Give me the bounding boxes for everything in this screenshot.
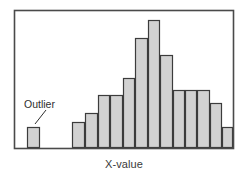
histogram-bar — [124, 79, 135, 148]
histogram-chart — [0, 0, 248, 178]
histogram-bar — [186, 91, 197, 148]
histogram-bar — [211, 104, 222, 148]
histogram-bar — [149, 21, 160, 148]
histogram-bar — [136, 39, 148, 148]
histogram-bar — [73, 123, 85, 148]
histogram-bar — [174, 91, 185, 148]
histogram-bar — [161, 56, 173, 148]
histogram-bar — [86, 114, 98, 148]
histogram-figure: Outlier X-value — [0, 0, 248, 178]
histogram-bar — [223, 128, 233, 148]
x-axis-label: X-value — [0, 158, 248, 170]
histogram-bar — [28, 128, 40, 148]
histogram-bar — [99, 96, 110, 148]
outlier-annotation-label: Outlier — [24, 98, 55, 110]
histogram-bar — [198, 91, 210, 148]
histogram-bar — [111, 96, 123, 148]
